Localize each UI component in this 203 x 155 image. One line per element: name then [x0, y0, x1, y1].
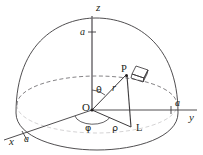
spherical-coordinates-figure: z y x a a a O P L θ φ ρ r — [0, 0, 203, 155]
angle-arc-phi — [75, 116, 110, 124]
angle-label-phi: φ — [85, 122, 91, 133]
radius-label-a-x: a — [24, 133, 29, 144]
radius-label-a-y: a — [175, 97, 180, 108]
origin-dot — [90, 108, 93, 111]
dV-box — [131, 66, 148, 82]
length-label-rho: ρ — [112, 122, 118, 133]
hemisphere-dome-outline — [16, 18, 178, 113]
figure-canvas: z y x a a a O P L θ φ ρ r — [0, 0, 203, 155]
segment-p-to-l — [127, 76, 131, 127]
axis-label-y: y — [188, 111, 194, 123]
base-circle-front-arc — [16, 113, 178, 150]
radius-label-a-z: a — [80, 26, 85, 37]
point-label-l: L — [136, 122, 142, 133]
length-label-r: r — [112, 82, 116, 93]
point-label-p: P — [121, 63, 127, 74]
equatorial-ellipse-front — [17, 105, 177, 133]
angle-label-theta: θ — [96, 84, 102, 95]
point-label-origin: O — [82, 101, 90, 113]
axis-label-z: z — [95, 1, 101, 13]
x-axis-line — [4, 110, 92, 140]
axis-label-x: x — [8, 135, 14, 147]
point-p-dot — [125, 74, 128, 77]
